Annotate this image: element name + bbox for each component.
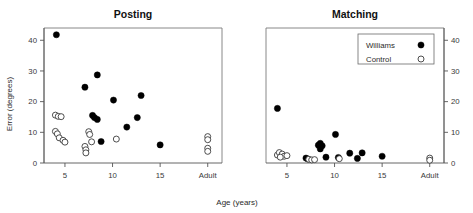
data-point-williams [157,142,163,148]
data-point-control [427,157,433,163]
data-point-control [336,156,342,162]
data-point-williams [124,124,130,130]
y-axis-label: Error (degrees) [5,77,14,132]
data-point-williams [359,150,365,156]
data-point-control [312,157,318,163]
series-control [52,112,210,156]
data-point-control [89,139,95,145]
series-control [274,150,432,164]
y-tick-label: 20 [28,97,37,106]
data-point-williams [134,114,140,120]
data-point-williams [332,131,338,137]
x-tick-label: 10 [108,171,117,180]
data-point-control [205,137,211,143]
data-point-williams [53,32,59,38]
data-point-williams [110,97,116,103]
y-tick-label: 0 [451,159,456,168]
data-point-control [205,148,211,154]
x-tick-label: Adult [421,171,440,180]
data-point-control [87,131,93,137]
y-tick-label: 20 [451,97,460,106]
data-point-williams [274,105,280,111]
plot-frame [44,28,222,163]
legend-marker-open-circle [418,56,424,62]
data-point-control [58,114,64,120]
x-tick-label: 10 [330,171,339,180]
series-williams [274,105,385,162]
x-tick-label: 15 [156,171,165,180]
data-point-williams [317,146,323,152]
y-tick-label: 10 [451,128,460,137]
y-tick-label: 0 [33,159,38,168]
legend-label-control: Control [366,55,391,64]
data-point-williams [82,84,88,90]
data-point-control [83,150,89,156]
x-tick-label: 5 [63,171,68,180]
x-tick-label: 5 [285,171,290,180]
data-point-williams [347,150,353,156]
data-point-williams [323,154,329,160]
data-point-williams [379,153,385,159]
y-tick-label: 10 [28,128,37,137]
data-point-control [62,139,68,145]
data-point-control [284,153,290,159]
panel-title-matching: Matching [332,8,378,20]
y-tick-label: 40 [28,36,37,45]
scatter-plot-figure: Posting51015Adult010203040Matching51015A… [0,0,473,213]
data-point-control [113,136,119,142]
legend-label-williams: Williams [366,41,395,50]
panel-posting: Posting51015Adult010203040 [28,8,222,180]
y-tick-label: 40 [451,36,460,45]
panel-title-posting: Posting [114,8,153,20]
data-point-williams [354,155,360,161]
y-tick-label: 30 [451,67,460,76]
x-axis-label: Age (years) [216,198,258,207]
data-point-williams [94,116,100,122]
x-tick-label: 15 [378,171,387,180]
y-tick-label: 30 [28,67,37,76]
data-point-control [277,154,283,160]
data-point-williams [98,138,104,144]
legend: WilliamsControl [358,34,434,64]
figure-container: Posting51015Adult010203040Matching51015A… [0,0,473,213]
series-williams [53,32,163,148]
data-point-williams [138,92,144,98]
x-tick-label: Adult [199,171,218,180]
data-point-williams [94,72,100,78]
legend-marker-filled-circle [418,42,424,48]
